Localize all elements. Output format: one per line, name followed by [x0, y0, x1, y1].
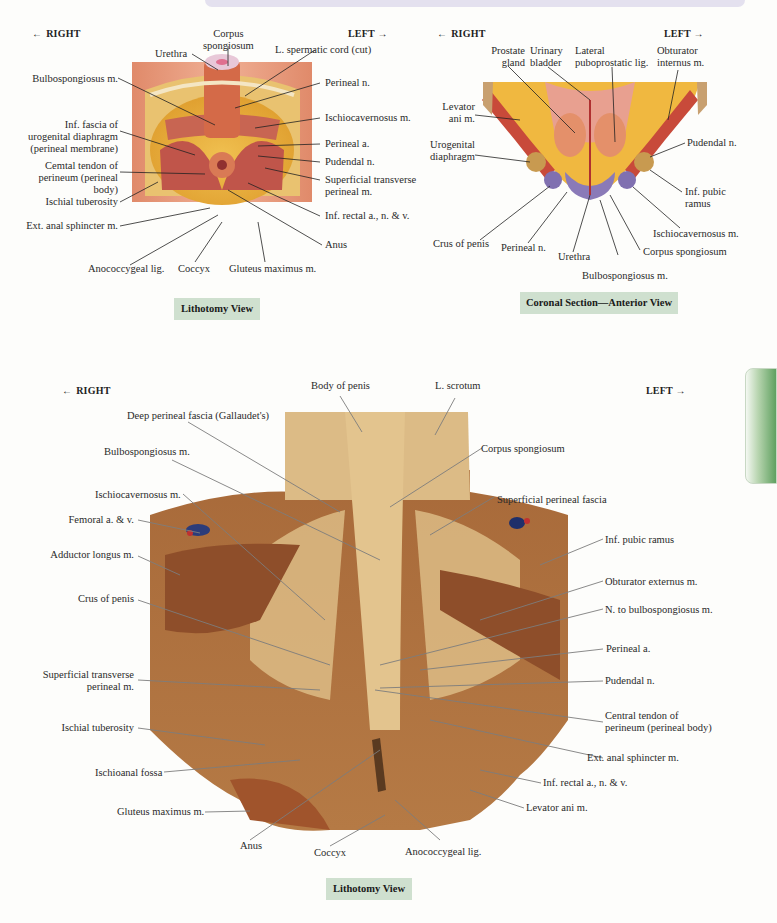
label-c-bulbospongiosus: Bulbospongiosus m. — [104, 446, 190, 458]
label-c-body-of-penis: Body of penis — [311, 380, 370, 392]
label-c-superficial-transverse: Superficial transverse perineal m. — [0, 669, 134, 693]
label-c-perineal-a: Perineal a. — [606, 643, 650, 655]
label-c-central-tendon: Central tendon of perineum (perineal bod… — [605, 710, 712, 734]
label-c-adductor: Adductor longus m. — [0, 549, 134, 561]
label-c-crus: Crus of penis — [0, 593, 134, 605]
label-c-deep-fascia: Deep perineal fascia (Gallaudet's) — [127, 410, 269, 422]
label-c-inf-rectal: Inf. rectal a., n. & v. — [543, 777, 627, 789]
label-c-femoral: Femoral a. & v. — [0, 514, 134, 526]
label-c-obturator-externus: Obturator externus m. — [605, 576, 697, 588]
label-c-gluteus: Gluteus maximus m. — [117, 806, 204, 818]
direction-left-label: LEFT — [646, 385, 673, 396]
label-c-superficial-fascia: Superficial perineal fascia — [497, 494, 607, 506]
figure-c-caption: Lithotomy View — [326, 878, 412, 900]
label-c-corpus-spongiosum: Corpus spongiosum — [481, 443, 565, 455]
label-c-levator-ani: Levator ani m. — [526, 802, 588, 814]
label-c-coccyx: Coccyx — [314, 847, 346, 859]
figure-c-direction-left: LEFT → — [646, 385, 686, 396]
label-c-inf-pubic-ramus: Inf. pubic ramus — [605, 534, 674, 546]
arrow-right-icon: → — [675, 385, 685, 396]
label-c-anococcygeal: Anococcygeal lig. — [405, 846, 481, 858]
label-c-l-scrotum: L. scrotum — [435, 380, 481, 392]
label-c-anus: Anus — [240, 840, 262, 852]
figure-c-direction-right: RIGHT — [62, 385, 111, 396]
label-c-ischiocavernosus: Ischiocavernosus m. — [95, 489, 181, 501]
label-c-n-bulbospongiosus: N. to bulbospongiosus m. — [605, 604, 713, 616]
label-c-pudendal-n: Pudendal n. — [605, 675, 655, 687]
label-c-ischioanal: Ischioanal fossa — [95, 767, 162, 779]
label-c-ischial-tuberosity: Ischial tuberosity — [0, 722, 134, 734]
label-c-ext-anal: Ext. anal sphincter m. — [587, 752, 679, 764]
